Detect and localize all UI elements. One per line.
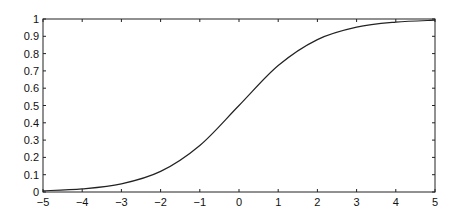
y-tick-label: 0.7 <box>24 65 39 77</box>
x-tick-label: −3 <box>115 196 128 208</box>
y-tick-label: 0.6 <box>24 82 39 94</box>
x-tick-label: 2 <box>314 196 320 208</box>
y-tick-label: 0.3 <box>24 134 39 146</box>
x-tick-label: 0 <box>236 196 242 208</box>
y-axis-ticks: 00.10.20.30.40.50.60.70.80.91 <box>24 13 435 198</box>
x-tick-label: 1 <box>275 196 281 208</box>
x-tick-label: 3 <box>354 196 360 208</box>
x-tick-label: 4 <box>393 196 399 208</box>
x-tick-label: −2 <box>154 196 167 208</box>
y-tick-label: 0.1 <box>24 169 39 181</box>
y-tick-label: 0.4 <box>24 117 39 129</box>
y-tick-label: 0.5 <box>24 100 39 112</box>
x-axis-ticks: −5−4−3−2−1012345 <box>37 19 438 208</box>
x-tick-label: 5 <box>432 196 438 208</box>
y-tick-label: 0.9 <box>24 30 39 42</box>
y-tick-label: 1 <box>33 13 39 25</box>
y-tick-label: 0.8 <box>24 48 39 60</box>
x-tick-label: −5 <box>37 196 50 208</box>
x-tick-label: −1 <box>194 196 207 208</box>
x-tick-label: −4 <box>76 196 89 208</box>
sigmoid-chart: 00.10.20.30.40.50.60.70.80.91 −5−4−3−2−1… <box>0 0 457 222</box>
sigmoid-curve <box>43 20 435 191</box>
y-tick-label: 0.2 <box>24 151 39 163</box>
